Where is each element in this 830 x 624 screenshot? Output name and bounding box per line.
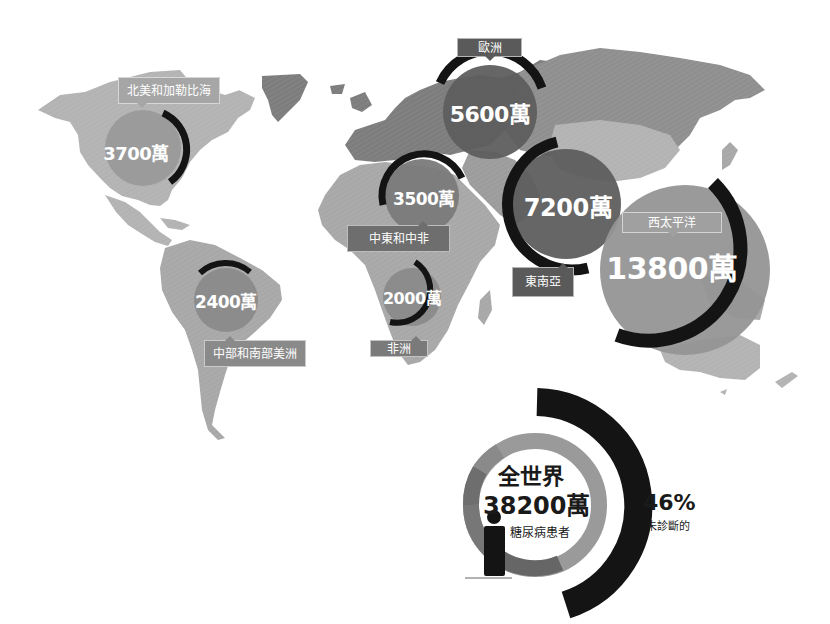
label-pointer bbox=[137, 103, 147, 108]
region-label-text: 歐洲 bbox=[478, 42, 502, 54]
region-label-north-america: 北美和加勒比海 bbox=[118, 77, 220, 104]
global-total: 38200萬 bbox=[483, 486, 591, 521]
label-pointer bbox=[411, 336, 421, 341]
region-label-south-america: 中部和南部美洲 bbox=[204, 340, 306, 367]
region-label-text: 中部和南部美洲 bbox=[213, 348, 297, 360]
global-subtitle: 糖尿病患者 bbox=[510, 523, 570, 540]
region-value-europe: 5600萬 bbox=[450, 96, 531, 128]
region-value-mena: 3500萬 bbox=[393, 185, 455, 210]
region-label-text: 非洲 bbox=[387, 343, 411, 355]
region-value-western-pacific: 13800萬 bbox=[606, 244, 737, 288]
region-value-south-america: 2400萬 bbox=[195, 288, 257, 313]
region-label-text: 東南亞 bbox=[525, 276, 561, 288]
label-pointer bbox=[418, 221, 428, 226]
region-value-north-america: 3700萬 bbox=[103, 139, 169, 165]
region-label-text: 西太平洋 bbox=[648, 217, 696, 229]
region-label-se-asia: 東南亞 bbox=[512, 267, 574, 297]
label-pointer bbox=[485, 56, 495, 61]
undiagnosed-percent: 46% bbox=[643, 490, 696, 515]
label-pointer bbox=[558, 263, 568, 268]
label-pointer bbox=[225, 336, 235, 341]
diabetes-world-infographic: 北美和加勒比海 3700萬 中部和南部美洲 2400萬 歐洲 5600萬 中東和… bbox=[0, 0, 830, 624]
region-label-text: 中東和中非 bbox=[369, 233, 429, 245]
region-label-mena: 中東和中非 bbox=[347, 225, 450, 252]
undiagnosed-label: 未診斷的 bbox=[646, 517, 690, 533]
region-value-africa: 2000萬 bbox=[383, 285, 441, 309]
region-label-text: 北美和加勒比海 bbox=[127, 85, 211, 97]
region-value-se-asia: 7200萬 bbox=[524, 188, 612, 223]
region-label-western-pacific: 西太平洋 bbox=[622, 212, 722, 233]
region-label-europe: 歐洲 bbox=[457, 38, 522, 57]
label-pointer bbox=[668, 232, 678, 237]
region-label-africa: 非洲 bbox=[370, 340, 428, 357]
